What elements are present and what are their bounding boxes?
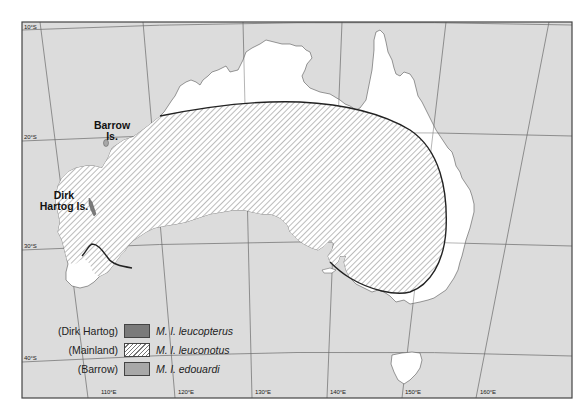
legend-region-label: (Mainland) (30, 344, 124, 356)
lat-label-30s: 30°S (24, 243, 37, 249)
swatch-solid-dark (124, 324, 150, 338)
legend-region-label: (Barrow) (30, 363, 124, 375)
lon-label-120e: 120°E (178, 389, 194, 395)
lon-label-140e: 140°E (330, 389, 346, 395)
lat-label-20s: 20°S (24, 134, 37, 140)
legend-item-leuconotus: (Mainland) M. l. leuconotus (30, 343, 230, 357)
lon-label-150e: 150°E (405, 389, 421, 395)
lon-label-130e: 130°E (255, 389, 271, 395)
legend-species-label: M. l. leucopterus (150, 325, 233, 337)
lon-label-160e: 160°E (480, 389, 496, 395)
lat-label-10s: 10°S (24, 24, 37, 30)
legend-region-label: (Dirk Hartog) (30, 325, 124, 337)
lon-label-110e: 110°E (101, 389, 116, 395)
legend-species-label: M. l. edouardi (150, 363, 220, 375)
swatch-solid-light (124, 362, 150, 376)
dirk-hartog-island-label: Dirk Hartog Is. (34, 190, 94, 212)
legend-species-label: M. l. leuconotus (150, 344, 230, 356)
legend-item-leucopterus: (Dirk Hartog) M. l. leucopterus (30, 324, 233, 338)
swatch-hatched (124, 343, 150, 357)
barrow-island-label: Barrow Is. (84, 120, 140, 142)
dirk-hartog-label-line2: Hartog Is. (34, 201, 94, 212)
barrow-label-line2: Is. (84, 131, 140, 142)
legend-item-edouardi: (Barrow) M. l. edouardi (30, 362, 220, 376)
